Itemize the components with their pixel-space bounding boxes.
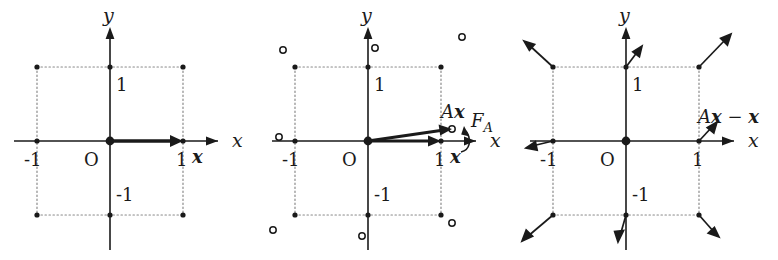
panel-transformed-canvas: x y 1 -1 1 -1 O x Ax FA (258, 0, 516, 260)
tick-label-y-neg: -1 (116, 184, 134, 205)
panel-difference-canvas: x y 1 -1 1 -1 O Ax − x (516, 0, 778, 260)
panel-original-canvas: x y 1 -1 1 -1 O x (0, 0, 258, 260)
panel-transformed: x y 1 -1 1 -1 O x Ax FA (258, 0, 516, 260)
operator-arrowhead (461, 126, 469, 136)
vector-label-Ax: Ax (439, 101, 465, 122)
tick-label-y-neg: -1 (632, 184, 650, 205)
tick-label-x-pos: 1 (434, 149, 445, 170)
vector-label-x: x (449, 146, 461, 167)
vector-label-x: x (191, 146, 203, 167)
tick-label-y-neg: -1 (374, 184, 392, 205)
origin-label: O (342, 149, 357, 170)
axis-label-y: y (360, 4, 372, 26)
tick-label-y-pos: 1 (116, 74, 127, 95)
tick-label-y-pos: 1 (374, 74, 385, 95)
tick-label-x-neg: -1 (540, 149, 558, 170)
tick-label-x-pos: 1 (176, 149, 187, 170)
origin-point (622, 137, 631, 146)
vector-x (110, 135, 183, 147)
axes (530, 27, 734, 250)
panel-original: x y 1 -1 1 -1 O x (0, 0, 258, 260)
panel-difference: x y 1 -1 1 -1 O Ax − x (516, 0, 778, 260)
difference-label: Ax − x (696, 106, 759, 127)
tick-label-x-pos: 1 (692, 149, 703, 170)
axes (272, 27, 476, 250)
figure-root: x y 1 -1 1 -1 O x (0, 0, 778, 260)
axes (14, 27, 218, 250)
vector-Ax (368, 125, 452, 141)
axis-label-x: x (232, 129, 243, 151)
tick-label-x-neg: -1 (282, 149, 300, 170)
operator-label-FA: FA (470, 110, 493, 135)
origin-label: O (84, 149, 99, 170)
axis-label-y: y (102, 4, 114, 26)
axis-label-y: y (618, 4, 630, 26)
tick-label-x-neg: -1 (24, 149, 42, 170)
tick-label-y-pos: 1 (632, 74, 643, 95)
axis-label-x: x (748, 129, 759, 151)
origin-label: O (600, 149, 615, 170)
